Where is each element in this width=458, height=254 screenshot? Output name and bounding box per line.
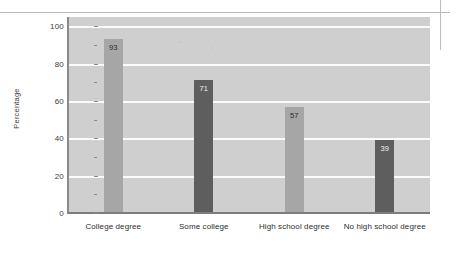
x-axis-line	[68, 212, 430, 214]
bar: 57	[285, 107, 304, 213]
bar-value-label: 71	[194, 84, 213, 93]
y-minor-tick-mark	[94, 82, 97, 83]
bar: 39	[375, 140, 394, 213]
y-minor-tick-mark	[94, 45, 97, 46]
y-tick-mark	[94, 26, 98, 27]
x-tick-label: College degree	[85, 222, 141, 231]
y-axis-line	[67, 17, 69, 214]
bar: 71	[194, 80, 213, 213]
y-tick-label: 0	[38, 209, 64, 218]
x-tick-label: Some college	[179, 222, 229, 231]
y-tick-mark	[94, 101, 98, 102]
y-minor-tick-mark	[94, 120, 97, 121]
bar-chart: 93715739 020406080100 Percentage College…	[0, 0, 458, 254]
scan-speckle	[178, 41, 181, 43]
gridline	[68, 26, 430, 28]
y-tick-mark	[94, 176, 98, 177]
y-tick-mark	[94, 64, 98, 65]
y-tick-label: 80	[38, 59, 64, 68]
y-tick-label: 40	[38, 134, 64, 143]
y-minor-tick-mark	[94, 194, 97, 195]
bar: 93	[104, 39, 123, 213]
y-tick-mark	[94, 213, 98, 214]
bar-value-label: 39	[375, 144, 394, 153]
y-tick-label: 100	[38, 22, 64, 31]
bar-value-label: 93	[104, 43, 123, 52]
y-axis-ticks: 020406080100	[30, 0, 64, 254]
y-tick-mark	[94, 138, 98, 139]
scan-speckle	[211, 47, 213, 49]
y-minor-tick-mark	[94, 157, 97, 158]
bar-value-label: 57	[285, 111, 304, 120]
x-tick-label: High school degree	[259, 222, 330, 231]
y-tick-label: 20	[38, 171, 64, 180]
y-axis-title: Percentage	[12, 69, 21, 149]
plot-area: 93715739	[68, 17, 430, 213]
x-tick-label: No high school degree	[344, 222, 426, 231]
y-tick-label: 60	[38, 97, 64, 106]
